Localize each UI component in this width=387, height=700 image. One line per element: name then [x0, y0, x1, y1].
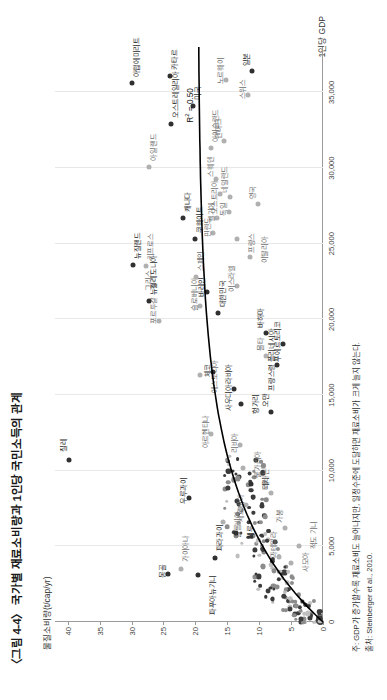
y-tick-label: 10 [255, 627, 264, 635]
y-tick-mark [132, 622, 133, 625]
y-tick-mark [227, 622, 228, 625]
y-tick-label: 0 [319, 627, 328, 631]
x-tick-label: 20,000 [327, 308, 336, 331]
x-tick-label: 35,000 [327, 81, 336, 104]
figure-source: 출처: Steinberger et al., 2010. [363, 553, 374, 652]
x-tick-label: 30,000 [327, 156, 336, 179]
r-squared-annotation: R2 = 0.50 [184, 88, 195, 123]
y-tick-mark [323, 622, 324, 625]
x-tick-label: 0 [327, 620, 336, 624]
rotated-figure-wrapper: 〈그림 4-4〉 국가별 재료소비량과 1인당 국민소득의 관계 물질소비량(t… [0, 0, 387, 700]
x-tick-label: 5,000 [327, 537, 336, 556]
figure-title: 〈그림 4-4〉 국가별 재료소비량과 1인당 국민소득의 관계 [8, 392, 24, 670]
y-axis-label: 물질소비량(t/cap/yr) [40, 576, 52, 650]
x-tick-label: 25,000 [327, 232, 336, 255]
figure-note: 주: GDP가 증가할수록 재료소비도 늘어나지만, 일정수준에 도달하면 재료… [350, 342, 361, 652]
y-tick-label: 30 [127, 627, 136, 635]
scatter-plot-area: 05,00010,00015,00020,00025,00030,00035,0… [55, 47, 323, 622]
y-tick-mark [163, 622, 164, 625]
y-tick-mark [195, 622, 196, 625]
y-tick-label: 15 [223, 627, 232, 635]
y-tick-label: 20 [191, 627, 200, 635]
y-tick-label: 40 [63, 627, 72, 635]
y-tick-mark [259, 622, 260, 625]
y-tick-label: 5 [287, 627, 296, 631]
trend-line [55, 47, 323, 622]
y-tick-mark [100, 622, 101, 625]
figure-canvas: 〈그림 4-4〉 국가별 재료소비량과 1인당 국민소득의 관계 물질소비량(t… [0, 0, 387, 700]
x-tick-label: 10,000 [327, 459, 336, 482]
x-tick-label: 15,000 [327, 383, 336, 406]
y-tick-mark [68, 622, 69, 625]
y-tick-label: 25 [159, 627, 168, 635]
y-tick-label: 35 [95, 627, 104, 635]
y-tick-mark [291, 622, 292, 625]
